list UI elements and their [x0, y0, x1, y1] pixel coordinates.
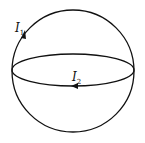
- sphere-diagram: I1 I2: [0, 0, 145, 143]
- label-i2: I2: [71, 70, 81, 86]
- label-i1: I1: [14, 21, 24, 37]
